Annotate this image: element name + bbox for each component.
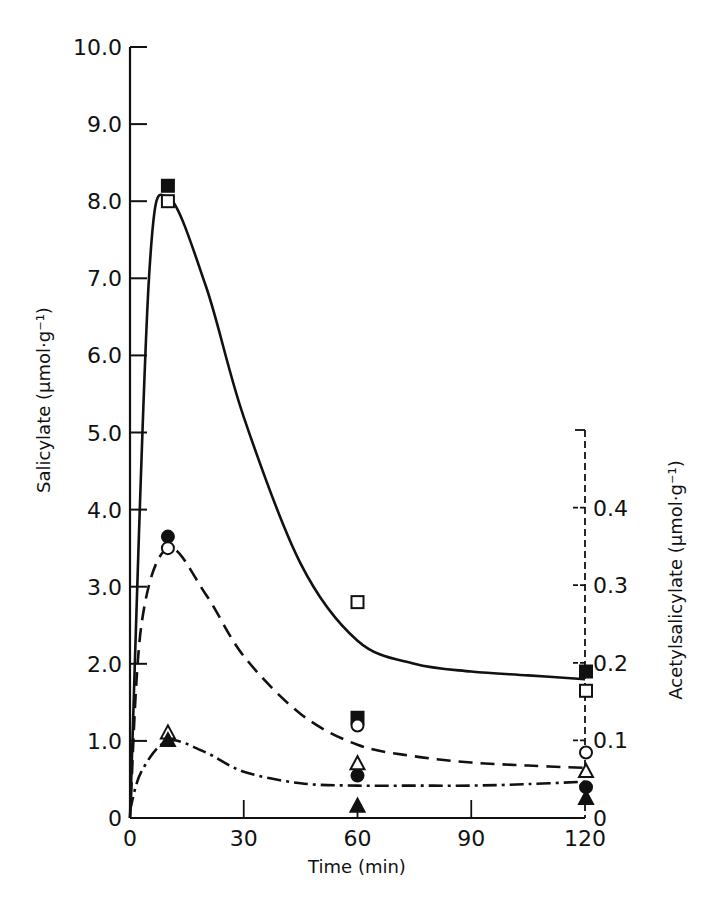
circle-open-marker bbox=[162, 542, 174, 554]
y2-axis-title: Acetylsalicylate (μmol·g⁻¹) bbox=[665, 460, 686, 699]
x-tick-label: 90 bbox=[457, 826, 485, 851]
triangle-filled-marker bbox=[351, 799, 365, 812]
circle-filled-marker bbox=[162, 531, 174, 543]
y-tick-label: 10.0 bbox=[73, 35, 122, 60]
data-markers bbox=[161, 180, 593, 812]
x-tick-label: 30 bbox=[230, 826, 258, 851]
y2-tick-label: 0.3 bbox=[593, 573, 628, 598]
x-tick-label: 60 bbox=[344, 826, 372, 851]
axes: 01.02.03.04.05.06.07.08.09.010.003060901… bbox=[73, 35, 628, 851]
y2-tick-label: 0.1 bbox=[593, 728, 628, 753]
y2-tick-label: 0.2 bbox=[593, 651, 628, 676]
y-tick-label: 3.0 bbox=[87, 575, 122, 600]
square-open-marker bbox=[162, 195, 174, 207]
y-axis-title: Salicylate (μmol·g⁻¹) bbox=[33, 307, 54, 493]
square-filled-marker bbox=[162, 180, 174, 192]
triangle-open-marker bbox=[579, 764, 593, 777]
circle-open-marker bbox=[580, 746, 592, 758]
y-tick-label: 6.0 bbox=[87, 343, 122, 368]
y-tick-label: 7.0 bbox=[87, 266, 122, 291]
chart: 01.02.03.04.05.06.07.08.09.010.003060901… bbox=[0, 0, 709, 909]
y-tick-label: 1.0 bbox=[87, 729, 122, 754]
circle-open-marker bbox=[352, 719, 364, 731]
triangle-filled-marker bbox=[579, 791, 593, 804]
square-filled-marker bbox=[580, 666, 592, 678]
circle-filled-marker bbox=[352, 770, 364, 782]
y-tick-label: 4.0 bbox=[87, 498, 122, 523]
y-tick-label: 5.0 bbox=[87, 421, 122, 446]
triangle-open-marker bbox=[351, 756, 365, 769]
square-open-marker bbox=[580, 685, 592, 697]
y-tick-label: 8.0 bbox=[87, 189, 122, 214]
y2-tick-label: 0 bbox=[593, 806, 607, 831]
y2-tick-label: 0.4 bbox=[593, 496, 628, 521]
y-tick-label: 2.0 bbox=[87, 652, 122, 677]
x-tick-label: 0 bbox=[123, 826, 137, 851]
square-open-marker bbox=[352, 596, 364, 608]
y-tick-label: 0 bbox=[108, 806, 122, 831]
x-axis-title: Time (min) bbox=[307, 856, 406, 877]
y-tick-label: 9.0 bbox=[87, 112, 122, 137]
